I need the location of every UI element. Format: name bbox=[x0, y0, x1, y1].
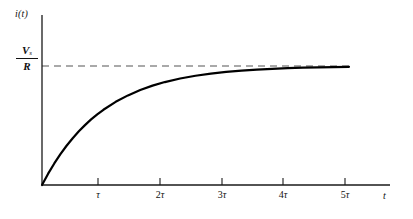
asymptote-numerator: Vs bbox=[14, 45, 40, 57]
y-axis-label: i(t) bbox=[15, 9, 28, 19]
x-axis-label: t bbox=[383, 191, 386, 201]
x-tick-label-4tau: 4τ bbox=[279, 190, 288, 200]
x-tick-label-5tau-symbol: τ bbox=[346, 189, 350, 200]
figure-container: i(t) t Vs R τ 2τ 3τ 4τ 5τ bbox=[0, 0, 413, 219]
x-tick-label-2tau: 2τ bbox=[156, 190, 165, 200]
x-tick-label-4tau-symbol: τ bbox=[284, 189, 288, 200]
x-tick-label-tau-symbol: τ bbox=[96, 189, 100, 200]
fraction-bar bbox=[16, 58, 38, 59]
x-tick-label-tau: τ bbox=[96, 190, 100, 200]
asymptote-numerator-subscript: s bbox=[29, 49, 32, 57]
x-tick-label-5tau: 5τ bbox=[341, 190, 350, 200]
x-tick-label-3tau-symbol: τ bbox=[223, 189, 227, 200]
x-tick-label-2tau-symbol: τ bbox=[161, 189, 165, 200]
asymptote-denominator: R bbox=[14, 60, 40, 72]
x-axis-ticks bbox=[98, 178, 345, 185]
exponential-rise-curve bbox=[42, 67, 349, 185]
x-tick-label-3tau: 3τ bbox=[218, 190, 227, 200]
asymptote-value-label: Vs R bbox=[14, 45, 40, 72]
plot-canvas bbox=[0, 0, 413, 219]
